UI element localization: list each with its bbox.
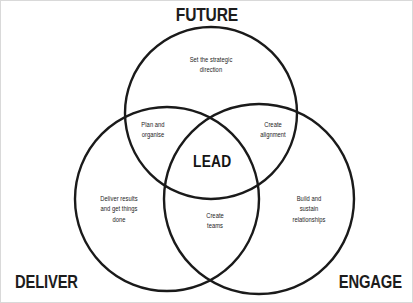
circle-label-future: FUTURE	[1, 5, 412, 24]
region-label-center-text: LEAD	[193, 154, 231, 170]
venn-circles-graphic	[1, 1, 413, 303]
region-label-deliver-engage: Create teams	[187, 211, 243, 232]
region-label-future-only: Set the strategic direction	[167, 55, 255, 76]
region-label-future-engage: Create alignment	[242, 120, 304, 141]
venn-diagram: FUTURE DELIVER ENGAGE Set the strategic …	[0, 0, 413, 303]
region-label-engage-only: Build and sustain relationships	[272, 194, 346, 225]
circle-label-future-text: FUTURE	[175, 5, 237, 24]
region-label-deliver-only: Deliver results and get things done	[82, 194, 156, 225]
circle-label-deliver: DELIVER	[15, 273, 78, 291]
region-label-future-deliver: Plan and organise	[123, 120, 183, 141]
region-label-center: LEAD	[177, 154, 247, 170]
circle-future	[125, 27, 297, 199]
circle-label-engage: ENGAGE	[339, 273, 402, 291]
